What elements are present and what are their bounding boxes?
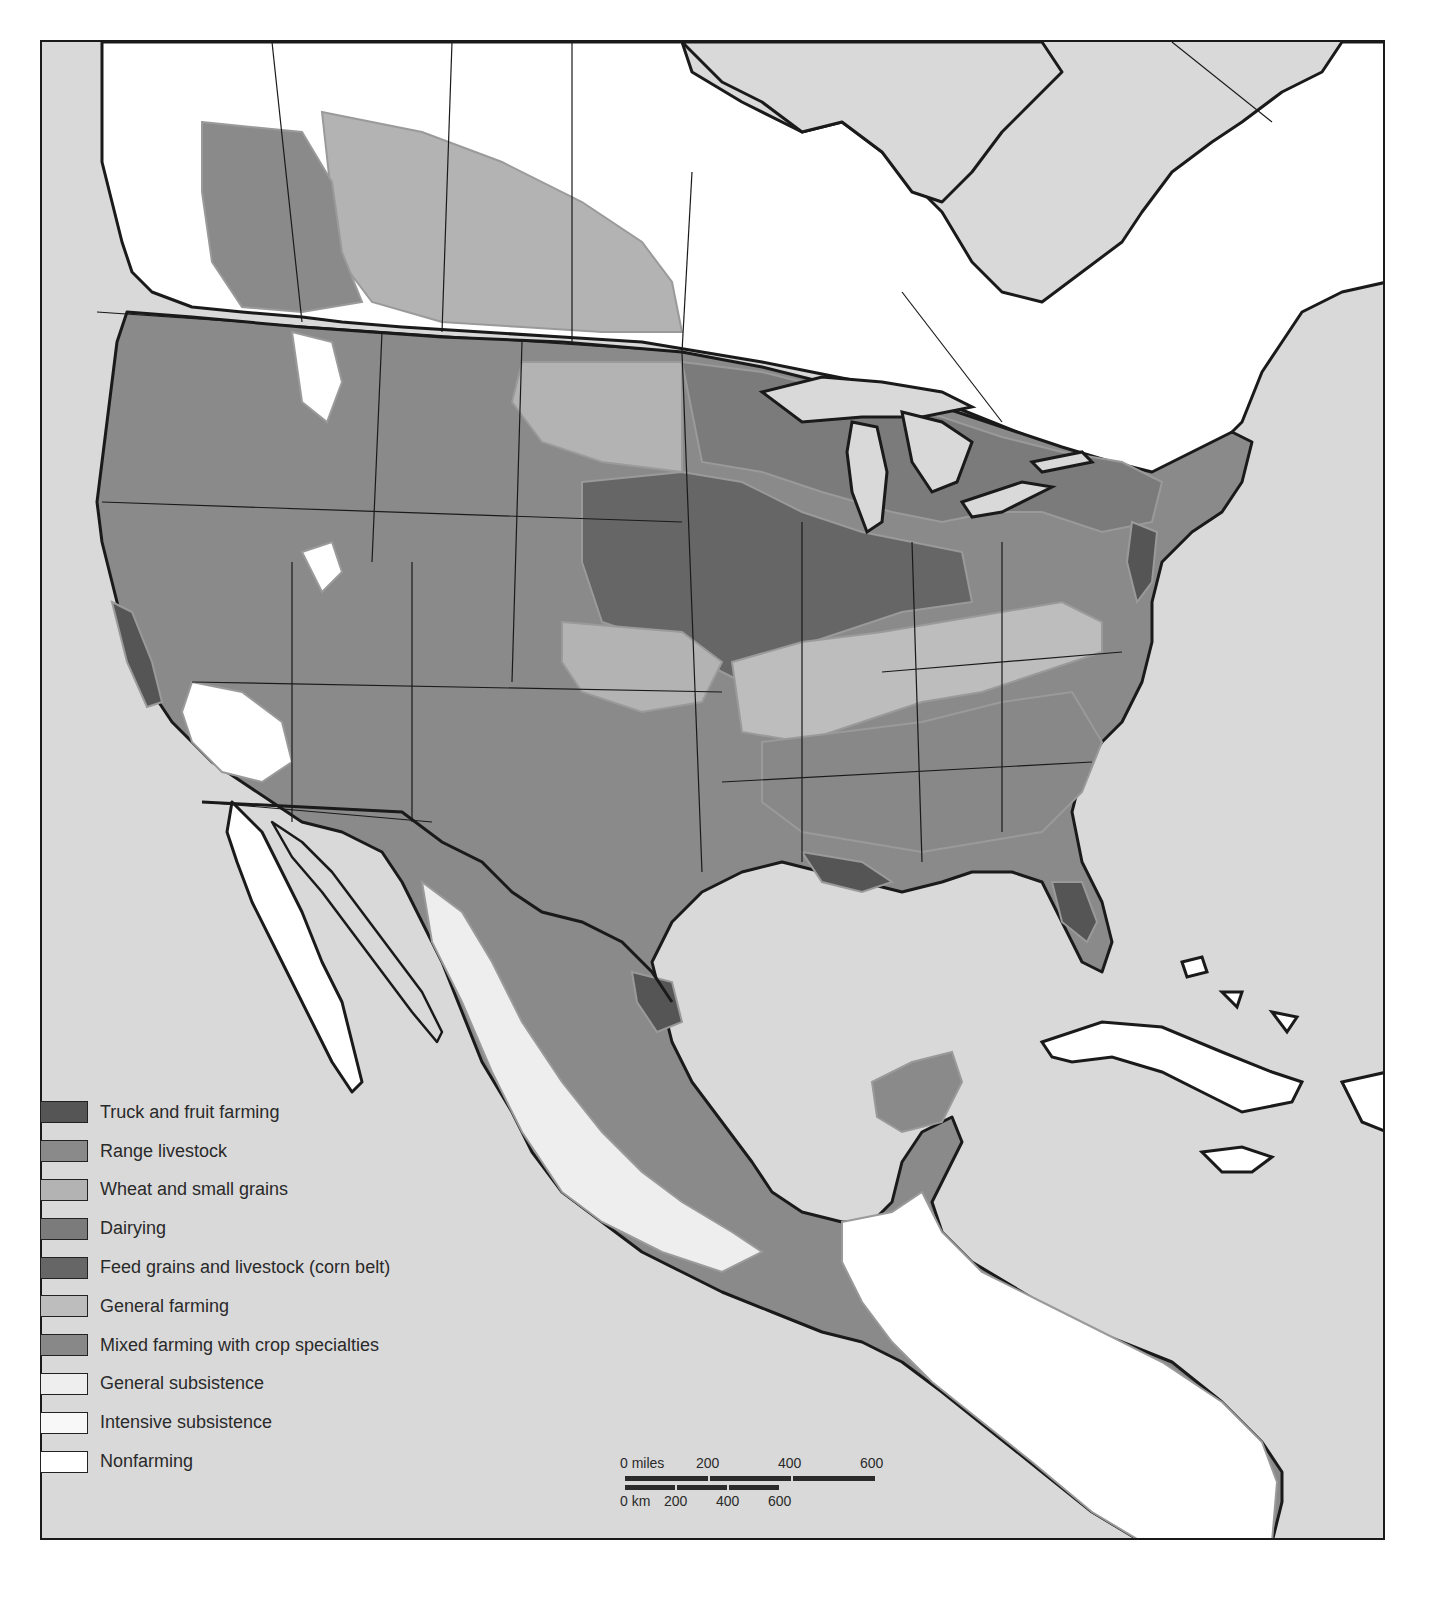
scale-km-bar [620,1485,920,1491]
legend-swatch-truck-fruit [40,1101,88,1123]
scale-segment [793,1476,875,1481]
legend-swatch-mixed-farming [40,1334,88,1356]
legend-swatch-wheat [40,1179,88,1201]
legend-label: Truck and fruit farming [100,1102,279,1123]
legend-item: Nonfarming [40,1442,390,1481]
scale-miles-label-600: 600 [860,1455,883,1471]
bahamas-3 [1272,1012,1297,1032]
legend-label: Range livestock [100,1141,227,1162]
legend-item: General farming [40,1287,390,1326]
scale-segment [625,1485,675,1490]
legend-item: Range livestock [40,1132,390,1171]
legend-item: General subsistence [40,1365,390,1404]
legend-label: Wheat and small grains [100,1179,288,1200]
caribbean-islands [1042,957,1385,1172]
legend-label: Nonfarming [100,1451,193,1472]
legend-item: Feed grains and livestock (corn belt) [40,1248,390,1287]
scale-segment [729,1485,779,1490]
legend-item: Mixed farming with crop specialties [40,1326,390,1365]
bahamas-1 [1182,957,1207,977]
map-legend: Truck and fruit farming Range livestock … [40,1093,390,1481]
scale-km-label-600: 600 [768,1493,791,1509]
hispaniola [1342,1072,1385,1132]
scale-miles-label-0: 0 miles [620,1455,664,1471]
legend-swatch-nonfarming [40,1451,88,1473]
scale-km-label-200: 200 [664,1493,687,1509]
scale-segment [710,1476,791,1481]
legend-label: Mixed farming with crop specialties [100,1335,379,1356]
scale-km-label-400: 400 [716,1493,739,1509]
bahamas-2 [1222,992,1242,1007]
scale-km-label-0: 0 km [620,1493,650,1509]
scale-miles-bar [620,1476,920,1482]
scale-km-labels: 0 km 200 400 600 [620,1493,920,1509]
legend-item: Truck and fruit farming [40,1093,390,1132]
legend-label: Intensive subsistence [100,1412,272,1433]
scale-miles-label-400: 400 [778,1455,801,1471]
legend-label: General farming [100,1296,229,1317]
jamaica [1202,1147,1272,1172]
scale-miles-labels: 0 miles 200 400 600 [620,1455,920,1473]
legend-swatch-general-subsistence [40,1373,88,1395]
legend-label: Dairying [100,1218,166,1239]
legend-swatch-dairying [40,1218,88,1240]
scale-segment [677,1485,727,1490]
legend-item: Dairying [40,1209,390,1248]
legend-swatch-corn-belt [40,1257,88,1279]
scale-miles-label-200: 200 [696,1455,719,1471]
scale-bar: 0 miles 200 400 600 0 km 200 400 600 [620,1455,920,1515]
legend-swatch-general-farming [40,1295,88,1317]
legend-item: Intensive subsistence [40,1403,390,1442]
cuba [1042,1022,1302,1112]
legend-item: Wheat and small grains [40,1171,390,1210]
legend-label: Feed grains and livestock (corn belt) [100,1257,390,1278]
legend-label: General subsistence [100,1373,264,1394]
legend-swatch-intensive-subsistence [40,1412,88,1434]
scale-segment [625,1476,708,1481]
legend-swatch-range-livestock [40,1140,88,1162]
